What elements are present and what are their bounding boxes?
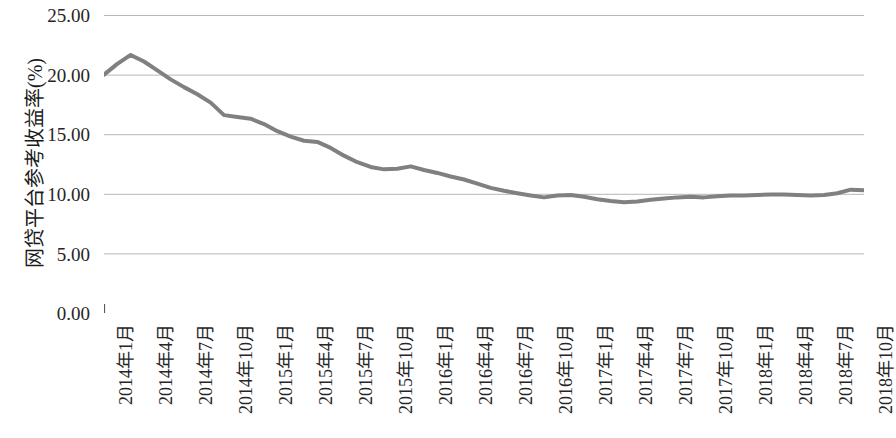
x-tick-label: 2016年4月 [477, 322, 495, 438]
x-tick-label: 2017年7月 [677, 322, 695, 438]
x-tick-label: 2016年7月 [517, 322, 535, 438]
x-tick-label: 2018年7月 [837, 322, 855, 438]
x-tick-label: 2014年10月 [237, 322, 255, 438]
x-tick-label: 2014年4月 [157, 322, 175, 438]
x-tick-label: 2016年10月 [557, 322, 575, 438]
x-tick-label: 2015年1月 [277, 322, 295, 438]
x-tick-label: 2018年4月 [797, 322, 815, 438]
x-tick-label: 2015年10月 [397, 322, 415, 438]
x-tick-label: 2017年10月 [717, 322, 735, 438]
x-tick-label: 2018年1月 [757, 322, 775, 438]
x-tick-label: 2016年1月 [437, 322, 455, 438]
x-tick-label: 2015年4月 [317, 322, 335, 438]
x-tick-label: 2014年1月 [117, 322, 135, 438]
x-tick-label: 2017年1月 [597, 322, 615, 438]
x-tick-label: 2018年10月 [877, 322, 895, 438]
x-tick-label: 2014年7月 [197, 322, 215, 438]
x-tick-label: 2015年7月 [357, 322, 375, 438]
x-tick-label: 2017年4月 [637, 322, 655, 438]
